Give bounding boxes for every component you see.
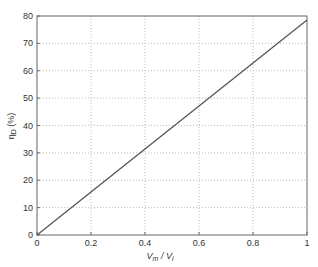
y-tick-label: 0 <box>28 230 33 240</box>
x-tick-label: 0.2 <box>85 238 98 248</box>
y-tick-label: 40 <box>23 121 33 131</box>
x-tick-label: 0.8 <box>247 238 260 248</box>
y-tick-label: 20 <box>23 175 33 185</box>
efficiency-line <box>37 20 307 235</box>
y-tick-label: 10 <box>23 203 33 213</box>
x-tick-label: 0 <box>34 238 39 248</box>
x-tick-label: 0.6 <box>193 238 206 248</box>
y-tick-label: 50 <box>23 93 33 103</box>
x-tick-label: 1 <box>304 238 309 248</box>
y-tick-label: 60 <box>23 66 33 76</box>
y-tick-label: 70 <box>23 38 33 48</box>
x-axis-ticks: 00.20.40.60.81 <box>34 232 309 248</box>
line-chart: 00.20.40.60.81 01020304050607080 Vm / Vi… <box>0 0 318 267</box>
y-axis-label: ηD (%) <box>6 113 17 140</box>
x-axis-label: Vm / Vi <box>147 251 174 262</box>
y-tick-label: 30 <box>23 148 33 158</box>
y-tick-label: 80 <box>23 11 33 21</box>
x-tick-label: 0.4 <box>139 238 152 248</box>
